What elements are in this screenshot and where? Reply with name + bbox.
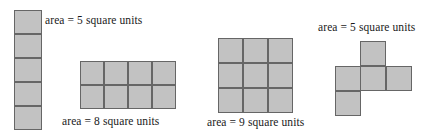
unit-square (152, 85, 176, 109)
unit-square (14, 34, 42, 58)
unit-square (335, 66, 361, 91)
unit-square (14, 106, 42, 130)
polyomino-area-figure: area = 5 square units area = 8 square un… (0, 0, 441, 139)
shape-cross-pentomino (335, 41, 412, 117)
unit-square (268, 38, 293, 63)
unit-square (218, 38, 243, 63)
shape-rectangle-4x2 (80, 61, 176, 109)
unit-square (14, 82, 42, 106)
shape-vertical-column-pentomino (14, 10, 42, 130)
area-label-square-3x3: area = 9 square units (207, 117, 304, 129)
area-label-cross-pentomino: area = 5 square units (318, 22, 415, 34)
unit-square (243, 63, 268, 88)
unit-square (268, 63, 293, 88)
unit-square (14, 58, 42, 82)
unit-square (218, 88, 243, 113)
unit-square (360, 41, 386, 66)
area-label-vertical-column: area = 5 square units (45, 15, 142, 27)
shape-square-3x3 (218, 38, 293, 113)
unit-square (128, 85, 152, 109)
unit-square (386, 66, 412, 91)
unit-square (104, 61, 128, 85)
unit-square (335, 91, 361, 116)
unit-square (243, 38, 268, 63)
unit-square (243, 88, 268, 113)
unit-square (80, 85, 104, 109)
area-label-rectangle-4x2: area = 8 square units (62, 116, 159, 128)
unit-square (104, 85, 128, 109)
unit-square (268, 88, 293, 113)
unit-square (152, 61, 176, 85)
unit-square (14, 10, 42, 34)
unit-square (80, 61, 104, 85)
unit-square (218, 63, 243, 88)
unit-square (360, 66, 386, 91)
unit-square (128, 61, 152, 85)
